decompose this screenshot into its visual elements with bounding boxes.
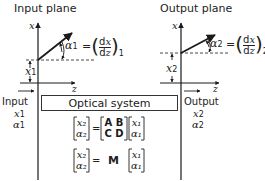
output-height-label: x2 <box>166 63 177 74</box>
input-angle-equation: =(dxdz)1 <box>82 36 124 58</box>
input-x1: x1 <box>14 109 25 119</box>
output-angle-label: α2 <box>210 38 223 49</box>
output-label: Output <box>184 97 219 107</box>
input-plane-title: Input plane <box>14 3 77 14</box>
eq2-equals: = <box>92 156 100 166</box>
eq2-rhs-vector: x₁ α₁ <box>131 149 142 171</box>
output-x2: x2 <box>193 109 204 119</box>
output-x-axis-label: x <box>172 21 178 31</box>
eq2-matrix-m: M <box>108 155 119 166</box>
eq1-equals: = <box>92 124 100 134</box>
eq1-rhs-vector: x₁ α₁ <box>131 117 142 139</box>
eq2-lhs-vector: x₂ α₂ <box>76 149 87 171</box>
optical-system-box: Optical system <box>41 95 178 111</box>
output-alpha2: α2 <box>192 120 204 130</box>
input-alpha1: α1 <box>13 120 25 130</box>
output-plane-title: Output plane <box>160 3 232 14</box>
output-z-axis-label: z <box>213 85 218 94</box>
eq1-lhs-vector: x₂ α₂ <box>76 117 87 139</box>
optical-system-label: Optical system <box>42 97 177 110</box>
output-angle-equation: =(dxdz)2 <box>226 34 265 56</box>
input-label: Input <box>2 97 28 107</box>
input-x-axis-label: x <box>29 21 35 31</box>
eq1-abcd-matrix: A B C D <box>103 117 125 139</box>
input-height-label: x1 <box>25 66 36 77</box>
input-z-axis-label: z <box>72 85 77 94</box>
input-angle-label: α1 <box>65 40 78 51</box>
